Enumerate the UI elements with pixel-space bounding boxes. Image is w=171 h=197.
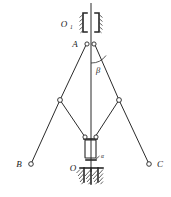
lower-support-inner-right-hatching — [92, 170, 98, 184]
outer-arm-left-midleft-to-B — [31, 100, 60, 164]
joint-a-right-pin — [92, 42, 96, 46]
lower-support-inner-left-hatching — [85, 170, 91, 184]
lower-support-right-hatching — [99, 170, 103, 185]
upper-link-left-A-to-midleft — [60, 45, 86, 100]
label-o1-subscript: 1 — [70, 24, 73, 30]
diagram-canvas: O 1 A β α B C O — [0, 0, 171, 197]
lower-fixed-support — [77, 156, 104, 184]
upper-bearing-right-bracket — [95, 13, 99, 32]
joint-a-left-pin — [85, 42, 89, 46]
upper-links-group — [60, 45, 119, 100]
label-o1: O — [61, 19, 68, 29]
inner-link-right-midright-to-collar — [95, 100, 119, 137]
label-beta: β — [95, 65, 101, 75]
label-a: A — [71, 39, 78, 49]
label-o: O — [70, 163, 77, 173]
joint-endpoint-b-pin — [29, 162, 34, 167]
beta-angle-annotation — [91, 56, 106, 64]
joint-mid-right-pin — [117, 98, 122, 103]
upper-bearing-left-bracket — [83, 13, 87, 32]
label-alpha: α — [101, 153, 104, 159]
lower-support-left-hatching — [77, 170, 84, 185]
beta-angle-arc — [91, 56, 106, 64]
joint-endpoint-c-pin — [147, 162, 152, 167]
joint-collar-right-pin — [94, 135, 98, 139]
label-c: C — [157, 159, 164, 169]
inner-links-group — [60, 100, 119, 137]
inner-link-left-midleft-to-collar — [60, 100, 85, 137]
outer-arm-right-midright-to-C — [119, 100, 149, 164]
label-b: B — [16, 159, 22, 169]
sliding-collar-group — [84, 139, 97, 158]
kinematic-diagram-figure: O 1 A β α B C O — [0, 0, 171, 197]
joint-collar-left-pin — [83, 135, 87, 139]
joint-mid-left-pin — [58, 98, 63, 103]
